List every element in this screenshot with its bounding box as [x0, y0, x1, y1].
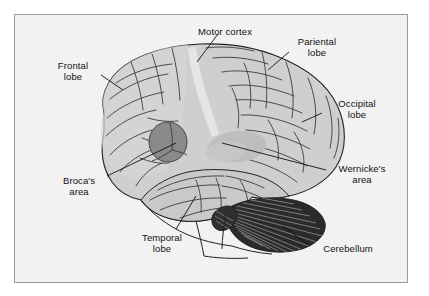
label-temporal-lobe: Temporal lobe: [131, 232, 193, 254]
label-wernickes-area: Wernicke's area: [328, 163, 396, 185]
cerebrum: [101, 44, 344, 221]
brocas-area-region: [149, 122, 187, 162]
cerebellum-region: [212, 198, 326, 252]
label-cerebellum: Cerebellum: [313, 243, 383, 254]
label-frontal-lobe: Frontal lobe: [44, 60, 102, 82]
label-occipital-lobe: Occipital lobe: [325, 98, 389, 120]
brain-diagram-figure: Motor cortex Pariental lobe Frontal lobe…: [0, 0, 429, 296]
label-motor-cortex: Motor cortex: [186, 26, 264, 37]
label-brocas-area: Broca's area: [51, 175, 107, 197]
label-pariental-lobe: Pariental lobe: [286, 36, 348, 58]
